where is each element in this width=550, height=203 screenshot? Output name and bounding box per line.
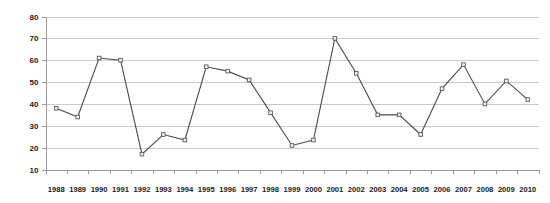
y-axis-tick-label: 40 [30, 100, 39, 109]
data-point-marker [119, 58, 123, 62]
chart-canvas: 1020304050607080 19881989199019911992199… [0, 0, 550, 203]
data-point-marker [505, 79, 509, 83]
x-axis-tick-label: 2001 [326, 185, 344, 194]
data-point-marker [290, 144, 294, 148]
x-axis-tick-label: 1988 [48, 185, 65, 194]
y-axis-labels: 1020304050607080 [30, 13, 39, 175]
x-axis-tick-label: 2006 [434, 185, 451, 194]
data-point-marker [247, 78, 251, 82]
data-point-marker [376, 113, 380, 117]
data-point-marker [269, 111, 273, 115]
x-axis-tick-label: 1995 [198, 185, 216, 194]
x-axis-tick-label: 2004 [391, 185, 409, 194]
data-point-marker [76, 115, 80, 119]
data-point-marker [355, 72, 359, 76]
y-axis-tick-label: 80 [30, 13, 39, 22]
data-point-marker [183, 138, 187, 142]
data-point-marker [204, 65, 208, 69]
data-point-marker [54, 107, 58, 111]
x-axis-labels: 1988198919901991199219931994199519961997… [48, 185, 536, 194]
y-axis-tick-label: 60 [30, 56, 39, 65]
x-axis-tick-label: 2007 [455, 185, 472, 194]
data-point-marker [97, 56, 101, 60]
y-axis-tick-label: 20 [30, 144, 39, 153]
x-axis-tick-label: 2008 [476, 185, 493, 194]
x-axis-tick-label: 1992 [134, 185, 151, 194]
x-axis-tick-label: 2010 [519, 185, 536, 194]
x-axis-tick-label: 1994 [176, 185, 194, 194]
x-axis-tick-label: 1999 [284, 185, 301, 194]
y-axis-tick-label: 30 [30, 122, 39, 131]
x-axis-tick-label: 1997 [241, 185, 258, 194]
line-chart: 1020304050607080 19881989199019911992199… [0, 0, 550, 203]
x-axis-tick-label: 2002 [348, 185, 365, 194]
data-point-markers [54, 37, 529, 156]
x-axis-tick-label: 1989 [69, 185, 86, 194]
data-point-marker [483, 102, 487, 106]
y-axis-tick-label: 10 [30, 166, 39, 175]
data-point-marker [526, 98, 530, 102]
data-point-marker [462, 63, 466, 67]
data-point-marker [397, 113, 401, 117]
x-axis-tick-label: 2009 [498, 185, 515, 194]
y-axis-tick-label: 50 [30, 78, 39, 87]
x-axis-tick-label: 2003 [369, 185, 386, 194]
data-point-marker [226, 69, 230, 73]
x-axis-tick-label: 2005 [412, 185, 430, 194]
data-point-marker [162, 133, 166, 137]
series-line [56, 38, 528, 154]
y-axis-ticks [42, 18, 46, 171]
x-axis-tick-label: 1993 [155, 185, 172, 194]
data-point-marker [440, 87, 444, 91]
data-series-line [56, 38, 528, 154]
data-point-marker [333, 37, 337, 41]
y-axis-tick-label: 70 [30, 34, 39, 43]
x-axis-tick-label: 1996 [219, 185, 236, 194]
data-point-marker [419, 133, 423, 137]
data-point-marker [312, 138, 316, 142]
x-axis-tick-label: 1991 [112, 185, 130, 194]
x-axis-tick-label: 1990 [91, 185, 108, 194]
data-point-marker [140, 152, 144, 156]
x-axis-tick-label: 2000 [305, 185, 322, 194]
x-axis-tick-label: 1998 [262, 185, 279, 194]
